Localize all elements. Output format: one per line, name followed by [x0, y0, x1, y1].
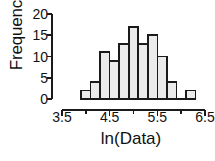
histogram-bar	[129, 27, 139, 99]
histogram-bar	[119, 44, 129, 99]
histogram-bar	[100, 52, 110, 99]
histogram-bar	[91, 82, 101, 99]
x-axis-label: ln(Data)	[52, 129, 210, 149]
histogram-bar	[110, 61, 120, 99]
histogram-bar	[81, 91, 91, 100]
histogram-bar	[138, 44, 148, 99]
x-tick-label: 5.5	[140, 110, 174, 124]
histogram-bar	[148, 35, 158, 99]
x-tick-label: 4.5	[93, 110, 127, 124]
histogram-bar	[157, 57, 167, 100]
histogram-figure: Frequency 0 5 10 15 20 3.5 4.5 5.5 6.5 l…	[0, 0, 215, 161]
x-tick-label: 6.5	[188, 110, 215, 124]
histogram-bar	[167, 82, 177, 99]
histogram-bar	[186, 91, 196, 100]
x-tick-label: 3.5	[45, 110, 79, 124]
